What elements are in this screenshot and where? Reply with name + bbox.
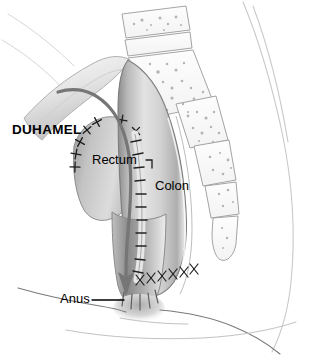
duhamel-procedure-illustration: DUHAMEL Rectum Colon Anus xyxy=(0,0,328,355)
procedure-title: DUHAMEL xyxy=(12,122,82,137)
vertebra-segment xyxy=(205,182,239,218)
label-anus: Anus xyxy=(60,291,90,306)
label-colon: Colon xyxy=(155,178,189,193)
label-rectum: Rectum xyxy=(92,152,137,167)
